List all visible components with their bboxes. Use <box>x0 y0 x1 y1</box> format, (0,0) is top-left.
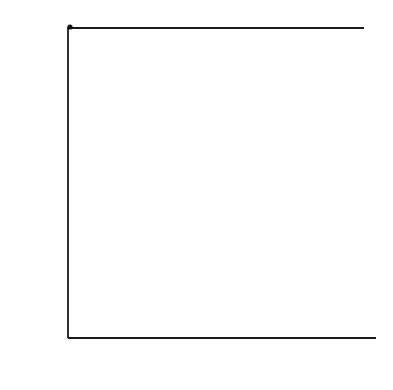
starburst-center <box>67 24 72 29</box>
blank-graph-grid <box>0 0 393 390</box>
